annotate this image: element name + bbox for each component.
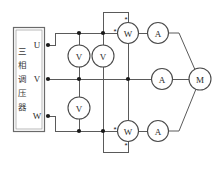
junction-nodes [46,31,130,133]
ammeter-middle-label: A [159,75,166,85]
circuit-diagram: 三 相 调 压 器 U V W [0,0,223,171]
voltmeter-1-label: V [76,52,83,62]
node-mid-bus-right [126,77,130,81]
wattmeter-top-label: W [124,29,133,39]
regulator-label-char-2: 调 [18,74,27,84]
node-terminal-w [46,114,50,118]
wattmeter-bottom-label: W [124,127,133,137]
regulator-label-char-3: 压 [18,88,27,98]
ammeter-bottom[interactable]: A [148,121,169,142]
circuit-svg: 三 相 调 压 器 U V W [0,0,223,171]
ammeter-middle[interactable]: A [152,69,173,90]
voltmeter-3-label: V [76,104,83,114]
node-terminal-v [46,77,50,81]
voltmeter-2-label: V [100,52,107,62]
ammeter-bottom-label: A [155,127,162,137]
wire-ammeter-top-to-motor [165,33,196,72]
wattmeter-top[interactable]: W * * [113,15,138,44]
terminal-label-w: W [33,111,42,121]
wattmeter-bottom[interactable]: W * * [113,121,138,150]
node-top-bus-right [101,31,105,35]
voltmeter-1[interactable]: V [68,45,90,67]
regulator-label-char-4: 器 [18,102,27,112]
node-bottom-bus-left [77,129,81,133]
node-bottom-bus-right [101,129,105,133]
node-mid-bus-left [77,77,81,81]
voltmeter-3[interactable]: V [68,97,90,119]
wattmeter-bottom-current-polarity-mark: * [113,125,116,134]
motor[interactable]: M [189,68,211,90]
motor-label: M [196,75,204,85]
voltmeter-2[interactable]: V [92,45,114,67]
terminal-label-u: U [34,40,41,50]
ammeter-top[interactable]: A [148,23,169,44]
wattmeter-top-current-polarity-mark: * [113,27,116,36]
ammeter-top-label: A [155,29,162,39]
wire-ammeter-bottom-to-motor [165,89,196,131]
wattmeter-bottom-voltage-polarity-mark: * [124,141,127,150]
node-top-bus-left [77,31,81,35]
regulator-label-char-1: 相 [18,60,27,70]
terminal-label-v: V [34,74,41,84]
regulator-label-char-0: 三 [18,46,27,56]
wattmeter-top-voltage-polarity-mark: * [124,15,127,24]
node-terminal-u [46,43,50,47]
